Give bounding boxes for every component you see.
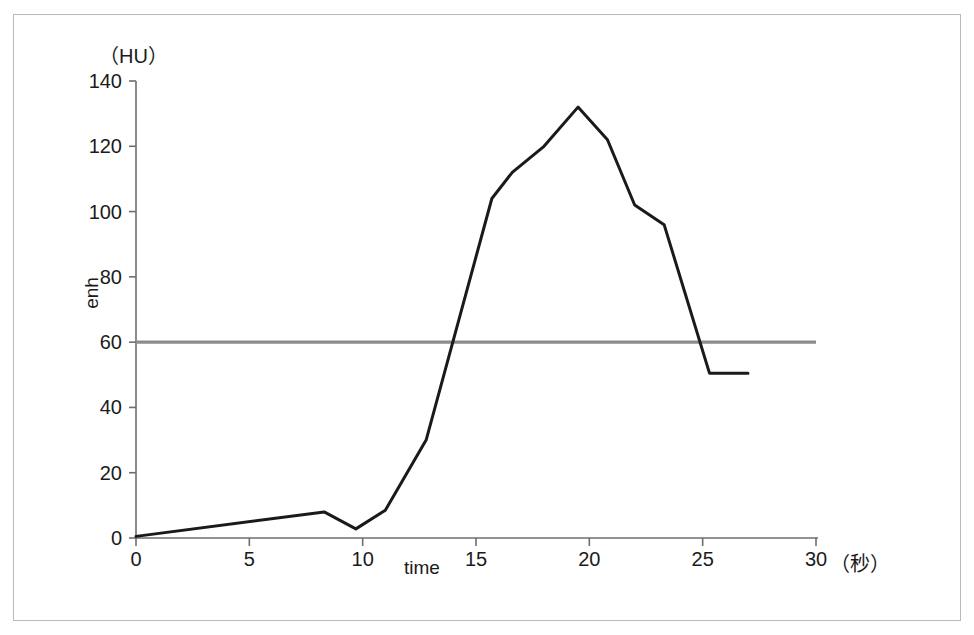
axes-group <box>129 81 818 546</box>
data-series-group <box>136 107 748 536</box>
series-line-0 <box>136 107 748 536</box>
plot-area: （HU） （秒） enh time 020406080100120140 051… <box>0 0 974 635</box>
chart-canvas <box>0 0 974 635</box>
figure-root: （HU） （秒） enh time 020406080100120140 051… <box>0 0 974 635</box>
